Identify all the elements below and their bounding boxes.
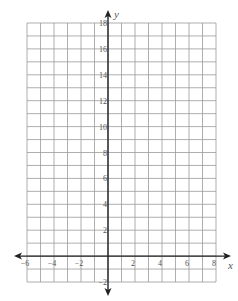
x-axis-label: x — [227, 259, 233, 271]
y-tick-label: 8 — [103, 149, 107, 158]
y-tick-label: 2 — [103, 226, 107, 235]
y-tick-label: 6 — [103, 174, 107, 183]
x-tick-label: 4 — [158, 259, 162, 268]
y-tick-label: 12 — [99, 97, 107, 106]
y-tick-label: −2 — [98, 278, 107, 287]
grid-lines — [27, 23, 216, 282]
coordinate-plane: −6−4−22468 −224681012141618 x y — [0, 0, 238, 301]
x-tick-labels: −6−4−22468 — [21, 259, 216, 268]
y-tick-label: 16 — [99, 45, 107, 54]
x-tick-label: 8 — [212, 259, 216, 268]
x-tick-label: 2 — [131, 259, 135, 268]
x-tick-label: −2 — [75, 259, 84, 268]
x-tick-label: −4 — [48, 259, 57, 268]
x-tick-label: −6 — [21, 259, 30, 268]
y-tick-label: 10 — [99, 123, 107, 132]
y-tick-label: 4 — [103, 200, 107, 209]
y-tick-label: 14 — [99, 71, 107, 80]
y-tick-labels: −224681012141618 — [98, 19, 107, 287]
x-tick-label: 6 — [185, 259, 189, 268]
axes — [14, 10, 231, 296]
y-tick-label: 18 — [99, 19, 107, 28]
y-axis-label: y — [113, 8, 119, 20]
